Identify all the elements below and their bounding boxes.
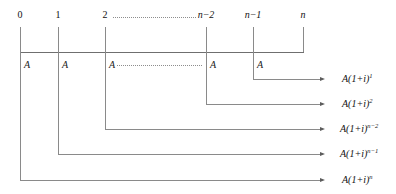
result-expression-1-exponent: 1: [369, 72, 372, 79]
payment-label-1-text: A: [62, 59, 68, 70]
tick-label-n-minus-1-text: n−1: [245, 9, 262, 20]
flow-bracket-5-arm: [20, 180, 322, 181]
payment-label-0: A: [24, 60, 30, 70]
tick-label-1-text: 1: [56, 9, 61, 20]
payment-label-2-text: A: [109, 59, 115, 70]
result-expression-2-exponent: 2: [369, 97, 372, 104]
flow-bracket-1-arm: [253, 79, 322, 80]
payment-label-2: A: [109, 60, 115, 70]
result-expression-5: A(1+i)n: [342, 175, 373, 185]
tick-line-n: [303, 27, 304, 53]
flow-bracket-1-arrowhead-icon: [320, 77, 325, 81]
flow-bracket-2-arm: [206, 104, 322, 105]
tick-label-0: 0: [18, 10, 23, 20]
result-expression-2: A(1+i)2: [342, 99, 373, 109]
result-expression-4: A(1+i)n−1: [340, 149, 378, 159]
tick-label-n-text: n: [301, 9, 306, 20]
timeline-axis: [20, 52, 304, 53]
payment-label-n-minus-2: A: [210, 60, 216, 70]
result-expression-4-base: A(1+i): [340, 148, 367, 159]
result-expression-1: A(1+i)1: [342, 74, 373, 84]
tick-label-1: 1: [56, 10, 61, 20]
flow-bracket-2-drop: [206, 52, 207, 104]
payment-label-n-minus-1-text: A: [257, 59, 263, 70]
payment-label-0-text: A: [24, 59, 30, 70]
result-expression-1-base: A(1+i): [342, 73, 369, 84]
result-expression-3-exponent: n−2: [367, 122, 378, 129]
flow-bracket-4-arm: [58, 154, 322, 155]
result-expression-5-base: A(1+i): [342, 174, 369, 185]
tick-label-n-minus-1: n−1: [245, 10, 262, 20]
flow-bracket-5-arrowhead-icon: [320, 178, 325, 182]
payment-label-n-minus-2-text: A: [210, 59, 216, 70]
ellipsis-middle-dotted-line: [117, 65, 202, 66]
flow-bracket-3-drop: [105, 52, 106, 129]
timeline-diagram: 0 1 2 n−2 n−1 n A A A A A: [0, 0, 396, 194]
tick-label-n: n: [301, 10, 306, 20]
flow-bracket-2-arrowhead-icon: [320, 102, 325, 106]
flow-bracket-5-drop: [20, 52, 21, 180]
tick-label-0-text: 0: [18, 9, 23, 20]
result-expression-3: A(1+i)n−2: [340, 124, 378, 134]
tick-label-2: 2: [103, 10, 108, 20]
result-expression-4-exponent: n−1: [367, 147, 378, 154]
tick-label-2-text: 2: [103, 9, 108, 20]
result-expression-5-exponent: n: [369, 173, 372, 180]
flow-bracket-3-arm: [105, 129, 322, 130]
result-expression-3-base: A(1+i): [340, 123, 367, 134]
ellipsis-top-dotted-line: [113, 17, 196, 18]
flow-bracket-3-arrowhead-icon: [320, 127, 325, 131]
tick-label-n-minus-2-text: n−2: [198, 9, 215, 20]
result-expression-2-base: A(1+i): [342, 98, 369, 109]
payment-label-1: A: [62, 60, 68, 70]
flow-bracket-4-drop: [58, 52, 59, 154]
payment-label-n-minus-1: A: [257, 60, 263, 70]
tick-label-n-minus-2: n−2: [198, 10, 215, 20]
flow-bracket-4-arrowhead-icon: [320, 152, 325, 156]
flow-bracket-1-drop: [253, 52, 254, 79]
